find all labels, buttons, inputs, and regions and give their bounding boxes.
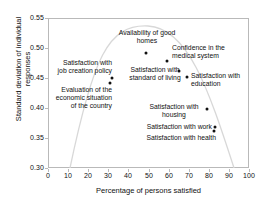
x-tick-50: 50 bbox=[139, 172, 159, 179]
y-tick-035: 0.35 bbox=[22, 134, 44, 141]
label-work: Satisfaction with work bbox=[131, 123, 212, 131]
x-tick-40: 40 bbox=[118, 172, 138, 179]
label-health: Satisfaction with health bbox=[131, 134, 216, 142]
label-job-creation: Satisfaction with job creation policy bbox=[51, 59, 112, 75]
y-tickmark-035 bbox=[45, 138, 48, 139]
y-tick-045: 0.45 bbox=[22, 74, 44, 81]
x-axis-title: Percentage of persons satisfied bbox=[48, 186, 249, 195]
label-homes: Availability of good homes bbox=[107, 29, 187, 45]
scatter-chart: Standard deviation of individual respons… bbox=[0, 0, 266, 202]
y-tickmark-045 bbox=[45, 78, 48, 79]
x-tick-20: 20 bbox=[78, 172, 98, 179]
y-tick-050: 0.50 bbox=[22, 44, 44, 51]
data-point-homes[interactable] bbox=[145, 52, 148, 55]
label-economy: Evaluation of the economic situation of … bbox=[42, 86, 112, 110]
y-tick-040: 0.40 bbox=[22, 104, 44, 111]
data-point-health[interactable] bbox=[213, 130, 216, 133]
data-point-work[interactable] bbox=[214, 126, 217, 129]
data-point-housing[interactable] bbox=[206, 108, 209, 111]
x-tick-90: 90 bbox=[219, 172, 239, 179]
label-education: Satisfaction with education bbox=[191, 72, 249, 88]
x-tick-60: 60 bbox=[159, 172, 179, 179]
y-tick-030: 0.30 bbox=[22, 164, 44, 171]
y-tickmark-055 bbox=[45, 18, 48, 19]
cropped-title-strip bbox=[0, 0, 266, 8]
x-tick-10: 10 bbox=[58, 172, 78, 179]
x-tick-0: 0 bbox=[38, 172, 58, 179]
label-medical: Confidence in the medical system bbox=[172, 44, 248, 60]
x-tick-30: 30 bbox=[98, 172, 118, 179]
label-housing: Satisfaction with housing bbox=[143, 103, 205, 119]
x-tick-70: 70 bbox=[179, 172, 199, 179]
x-tick-80: 80 bbox=[199, 172, 219, 179]
data-point-job-creation[interactable] bbox=[111, 77, 114, 80]
data-point-medical[interactable] bbox=[166, 60, 169, 63]
x-tick-100: 100 bbox=[239, 172, 259, 179]
y-tick-055: 0.55 bbox=[22, 14, 44, 21]
label-standard-of-living: Satisfaction with standard of living bbox=[124, 66, 186, 82]
data-point-economy[interactable] bbox=[109, 82, 112, 85]
y-tickmark-050 bbox=[45, 48, 48, 49]
